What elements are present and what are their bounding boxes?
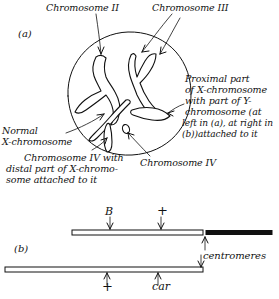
figure-drawing: [0, 0, 279, 299]
chromosome-iii-body: [129, 54, 161, 116]
arrowhead-normal-x: [97, 114, 104, 120]
chromosome-iv-with-x-body: [104, 123, 112, 152]
upper-chromosome-solid-segment: [206, 231, 272, 235]
leader-chromosome-iii-b: [160, 18, 180, 54]
leader-chromosome-iii: [142, 14, 172, 52]
nucleus-outline: [68, 32, 191, 155]
proximal-x-y-fragment: [131, 108, 170, 121]
leader-chromosome-iv: [128, 133, 150, 156]
lower-chromosome-bar: [5, 267, 203, 272]
upper-chromosome-open-segment: [72, 230, 203, 235]
chromosome-figure: (a) (b) Chromosome II Chromosome III Nor…: [0, 0, 279, 299]
leader-proximal-x: [168, 104, 184, 113]
chromosome-iv-body: [121, 124, 130, 135]
